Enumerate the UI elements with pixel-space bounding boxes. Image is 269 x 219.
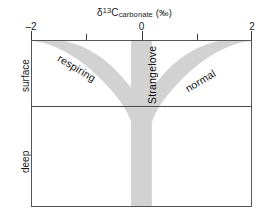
figure-root: δ13Ccarbonate (‰) –2 0 2 surface deep re… bbox=[0, 0, 269, 219]
axis-title-element: C bbox=[111, 7, 118, 18]
x-axis-title: δ13Ccarbonate (‰) bbox=[0, 6, 269, 19]
axis-title-units: (‰) bbox=[156, 7, 172, 18]
axis-title-superscript: 13 bbox=[103, 6, 112, 15]
x-tick-mark-plus2 bbox=[251, 31, 252, 40]
x-tick-mark-minus2 bbox=[31, 31, 32, 40]
axis-title-subscript: carbonate bbox=[119, 10, 153, 19]
depth-label-surface: surface bbox=[20, 59, 31, 92]
x-tick-mark-zero bbox=[142, 31, 143, 40]
surface-deep-divider bbox=[31, 106, 252, 107]
x-tick-label-plus2: 2 bbox=[240, 21, 264, 32]
depth-label-deep: deep bbox=[20, 151, 31, 173]
curve-label-strangelove: Strangelove bbox=[146, 46, 158, 104]
